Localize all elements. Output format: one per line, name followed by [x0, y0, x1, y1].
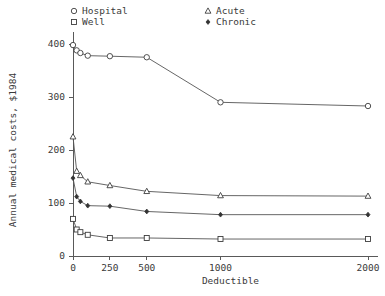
x-tick-label: 1000	[209, 262, 232, 273]
y-tick-label: 400	[48, 38, 65, 49]
x-tick-label: 0	[70, 262, 76, 273]
data-point	[218, 100, 223, 105]
data-point	[78, 230, 83, 235]
legend-label: Acute	[216, 5, 245, 16]
y-tick-label: 300	[48, 91, 65, 102]
series-acute	[70, 134, 371, 199]
legend-label: Hospital	[82, 5, 128, 16]
data-point	[71, 216, 76, 221]
x-tick-label: 500	[138, 262, 155, 273]
legend: HospitalWellAcuteChronic	[71, 5, 256, 27]
x-axis-title: Deductible	[202, 275, 259, 286]
legend-label: Well	[82, 16, 105, 27]
series-line	[73, 45, 368, 106]
data-point	[218, 237, 223, 242]
series-line	[73, 137, 368, 196]
data-point	[219, 212, 223, 217]
y-axis: 0100200300400	[48, 32, 73, 261]
legend-entry-acute: Acute	[205, 5, 245, 16]
legend-marker-chronic	[206, 20, 210, 25]
plot-series	[70, 42, 371, 241]
series-well	[71, 216, 371, 241]
data-point	[78, 50, 83, 55]
x-tick-label: 2000	[357, 262, 380, 273]
data-point	[107, 235, 112, 240]
data-point	[144, 235, 149, 240]
legend-marker-hospital	[71, 8, 76, 13]
data-point	[85, 232, 90, 237]
data-point	[70, 42, 75, 47]
series-line	[73, 219, 368, 239]
data-point	[70, 134, 76, 139]
y-axis-title: Annual medical costs, $1984	[7, 73, 18, 228]
x-axis: 025050010002000	[70, 256, 380, 273]
legend-label: Chronic	[216, 16, 256, 27]
chart-container: HospitalWellAcuteChronic 0100200300400 0…	[0, 0, 385, 296]
data-point	[144, 55, 149, 60]
line-chart: HospitalWellAcuteChronic 0100200300400 0…	[0, 0, 385, 296]
data-point	[71, 176, 75, 181]
legend-entry-hospital: Hospital	[71, 5, 127, 16]
y-tick-label: 200	[48, 144, 65, 155]
legend-marker-acute	[205, 8, 211, 13]
legend-marker-well	[72, 20, 77, 25]
data-point	[145, 209, 149, 214]
data-point	[86, 203, 90, 208]
x-tick-label: 250	[101, 262, 118, 273]
legend-entry-well: Well	[72, 16, 105, 27]
data-point	[366, 212, 370, 217]
data-point	[74, 168, 80, 173]
data-point	[366, 237, 371, 242]
data-point	[108, 204, 112, 209]
series-hospital	[70, 42, 370, 108]
data-point	[107, 53, 112, 58]
y-tick-label: 0	[59, 250, 65, 261]
data-point	[85, 53, 90, 58]
legend-entry-chronic: Chronic	[206, 16, 256, 27]
y-tick-label: 100	[48, 197, 65, 208]
data-point	[365, 103, 370, 108]
